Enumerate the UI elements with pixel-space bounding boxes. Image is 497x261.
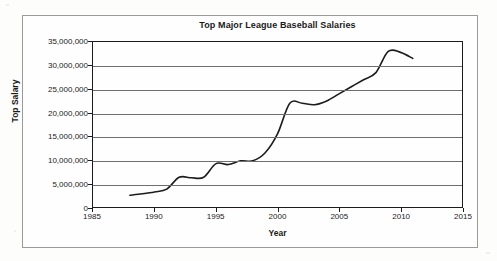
y-tick-label: 5,000,000 bbox=[22, 180, 88, 189]
gridline bbox=[93, 185, 462, 186]
y-tick-label: 35,000,000 bbox=[22, 37, 88, 46]
x-tick-label: 2015 bbox=[443, 212, 483, 221]
gridline bbox=[93, 137, 462, 138]
y-tick-mark bbox=[88, 184, 92, 185]
gridline bbox=[93, 90, 462, 91]
y-tick-label: 10,000,000 bbox=[22, 156, 88, 165]
y-tick-label: 15,000,000 bbox=[22, 132, 88, 141]
plot-area bbox=[92, 41, 463, 208]
scan-artifact bbox=[14, 230, 16, 232]
y-tick-mark bbox=[88, 113, 92, 114]
scan-artifact bbox=[6, 4, 9, 6]
scan-artifact bbox=[486, 252, 490, 254]
gridline bbox=[93, 114, 462, 115]
y-tick-label: 25,000,000 bbox=[22, 84, 88, 93]
x-tick-mark bbox=[216, 208, 217, 212]
y-tick-mark bbox=[88, 65, 92, 66]
x-tick-mark bbox=[339, 208, 340, 212]
y-tick-mark bbox=[88, 41, 92, 42]
x-tick-label: 2010 bbox=[381, 212, 421, 221]
y-tick-mark bbox=[88, 160, 92, 161]
y-tick-mark bbox=[88, 89, 92, 90]
x-tick-mark bbox=[401, 208, 402, 212]
chart-page: Top Major League Baseball Salaries Top S… bbox=[0, 0, 497, 261]
y-tick-label: 20,000,000 bbox=[22, 108, 88, 117]
y-tick-mark bbox=[88, 136, 92, 137]
x-axis-tick-labels: 1985199019952000200520102015 bbox=[92, 212, 463, 226]
x-tick-mark bbox=[278, 208, 279, 212]
x-tick-label: 2005 bbox=[319, 212, 359, 221]
x-tick-label: 1985 bbox=[72, 212, 112, 221]
x-tick-mark bbox=[92, 208, 93, 212]
x-tick-mark bbox=[463, 208, 464, 212]
gridline bbox=[93, 66, 462, 67]
y-axis-tick-labels: 05,000,00010,000,00015,000,00020,000,000… bbox=[18, 41, 88, 208]
y-tick-label: 30,000,000 bbox=[22, 60, 88, 69]
x-tick-label: 1990 bbox=[134, 212, 174, 221]
x-axis-title: Year bbox=[92, 228, 463, 238]
x-tick-label: 1995 bbox=[196, 212, 236, 221]
chart-title: Top Major League Baseball Salaries bbox=[92, 20, 463, 30]
x-tick-mark bbox=[154, 208, 155, 212]
x-tick-label: 2000 bbox=[258, 212, 298, 221]
gridline bbox=[93, 161, 462, 162]
